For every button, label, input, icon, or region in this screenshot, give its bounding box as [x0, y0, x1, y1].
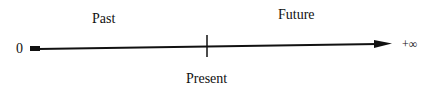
present-label: Present — [186, 72, 227, 86]
arrowhead-icon — [374, 40, 392, 48]
timeline-axis — [38, 44, 378, 49]
future-label: Future — [278, 8, 315, 22]
infinity-label: +∞ — [402, 38, 417, 50]
past-label: Past — [92, 12, 115, 26]
origin-label: 0 — [16, 42, 23, 56]
